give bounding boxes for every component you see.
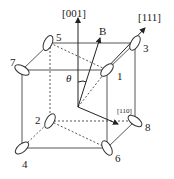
- diagonal-2-6: [50, 121, 107, 148]
- cubic-lattice-diagram: [001] [111] [110] B θ 1 2 3 4 5 6 7 8: [0, 0, 174, 179]
- site-label-3: 3: [143, 42, 149, 54]
- site-label-6: 6: [115, 152, 121, 164]
- site-label-4: 4: [22, 158, 28, 170]
- site-label-5: 5: [56, 31, 62, 43]
- cube-edge: [107, 121, 135, 148]
- site-label-8: 8: [145, 121, 151, 133]
- label-111: [111]: [138, 11, 161, 23]
- site-label-7: 7: [10, 56, 16, 68]
- site-label-1: 1: [117, 70, 123, 82]
- label-theta: θ: [66, 72, 72, 84]
- label-110: [110]: [117, 107, 132, 115]
- field-B-arrow: [78, 38, 100, 107]
- label-001: [001]: [62, 7, 86, 19]
- site-label-2: 2: [35, 114, 41, 126]
- label-B: B: [99, 25, 106, 37]
- angle-arc: [78, 81, 86, 82]
